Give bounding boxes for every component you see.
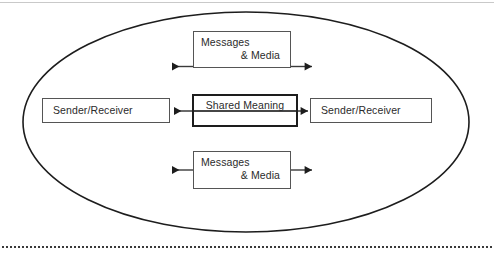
diagram-canvas: Messages & Media Sender/Receiver Shared … bbox=[0, 0, 494, 256]
left-sender-receiver-label: Sender/Receiver bbox=[53, 104, 133, 117]
left-sender-receiver-box: Sender/Receiver bbox=[42, 98, 170, 123]
top-messages-line-2: & Media bbox=[201, 49, 284, 62]
bottom-dotted-rule bbox=[2, 246, 492, 248]
shared-meaning-label: Shared Meaning bbox=[206, 99, 284, 111]
right-sender-receiver-label: Sender/Receiver bbox=[321, 104, 401, 117]
right-sender-receiver-box: Sender/Receiver bbox=[310, 98, 432, 123]
shared-meaning-box: Shared Meaning bbox=[192, 94, 298, 127]
bottom-messages-line-2: & Media bbox=[201, 169, 284, 182]
top-messages-line-1: Messages bbox=[201, 36, 284, 49]
bottom-messages-media-box: Messages & Media bbox=[193, 151, 291, 189]
bottom-messages-line-1: Messages bbox=[201, 156, 284, 169]
top-messages-media-box: Messages & Media bbox=[193, 31, 291, 68]
